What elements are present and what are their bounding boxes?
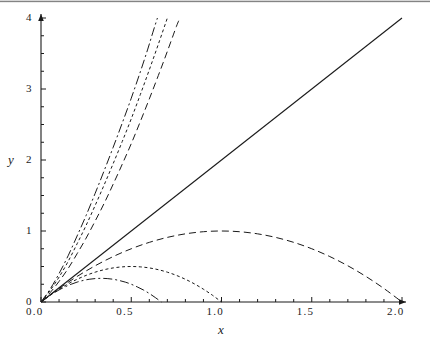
series-rising-curve-3 (41, 18, 180, 302)
x-tick-label: 1.0 (207, 305, 224, 317)
plot-figure (0, 0, 430, 342)
x-tick-label: 2.0 (387, 305, 404, 317)
y-tick-label: 0 (26, 295, 33, 307)
plot-series-group (41, 18, 402, 302)
x-axis-title: x (218, 322, 224, 338)
y-tick-label: 4 (26, 11, 33, 23)
series-straight-line (41, 18, 402, 302)
series-rising-curve-2 (41, 18, 167, 302)
y-tick-label: 1 (26, 224, 33, 236)
series-arch-medium (41, 267, 222, 303)
x-axis-ticks (41, 297, 402, 302)
x-tick-label: 1.5 (297, 305, 314, 317)
y-axis-title: y (8, 152, 14, 168)
x-tick-label: 0.5 (116, 305, 133, 317)
series-rising-curve-1 (41, 18, 157, 302)
series-arch-large (41, 231, 402, 302)
y-axis-ticks (41, 18, 46, 302)
y-tick-label: 3 (26, 82, 33, 94)
y-tick-label: 2 (26, 153, 33, 165)
